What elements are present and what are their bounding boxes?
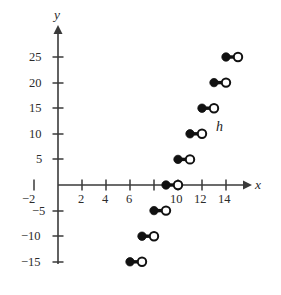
open-endpoint-dot: [174, 181, 182, 189]
open-endpoint-dot: [222, 78, 230, 86]
x-tick-label-12: 12: [194, 193, 207, 206]
closed-endpoint-dot: [222, 53, 230, 61]
step-segment: [174, 155, 194, 163]
open-endpoint-dot: [150, 232, 158, 240]
x-tick-label-10: 10: [170, 193, 183, 206]
closed-endpoint-dot: [138, 232, 146, 240]
x-axis-label: x: [255, 178, 261, 192]
open-endpoint-dot: [210, 104, 218, 112]
x-axis-arrow-icon: [243, 181, 252, 190]
x-tick-label-14: 14: [218, 193, 231, 206]
closed-endpoint-dot: [150, 206, 158, 214]
step-segment: [150, 206, 170, 214]
y-tick-label-25: 25: [29, 51, 42, 64]
y-tick-label--15: −15: [21, 256, 41, 269]
step-segment: [186, 130, 206, 138]
step-segment: [198, 104, 218, 112]
closed-endpoint-dot: [174, 155, 182, 163]
step-segment: [162, 181, 182, 189]
y-tick-label-20: 20: [29, 77, 42, 90]
open-endpoint-dot: [162, 206, 170, 214]
y-tick-label-15: 15: [29, 102, 42, 115]
step-segment: [210, 78, 230, 86]
y-tick-label-10: 10: [29, 128, 42, 141]
closed-endpoint-dot: [162, 181, 170, 189]
x-tick-label-2: 2: [78, 193, 84, 206]
y-axis-arrow-icon: [54, 25, 63, 34]
x-tick-label-4: 4: [102, 193, 108, 206]
open-endpoint-dot: [186, 155, 194, 163]
open-endpoint-dot: [234, 53, 242, 61]
closed-endpoint-dot: [186, 130, 194, 138]
y-axis-label: y: [54, 8, 60, 22]
step-segment: [222, 53, 242, 61]
y-tick-label-5: 5: [36, 153, 42, 166]
function-label-h: h: [216, 120, 223, 134]
closed-endpoint-dot: [126, 258, 134, 266]
axes-group: [54, 25, 253, 264]
plot-area: [0, 0, 281, 295]
y-tick-label--10: −10: [21, 230, 41, 243]
step-segment: [126, 258, 146, 266]
open-endpoint-dot: [198, 130, 206, 138]
step-segments-layer: [126, 53, 242, 266]
y-tick-label--5: −5: [32, 205, 45, 218]
open-endpoint-dot: [138, 258, 146, 266]
x-tick-label-6: 6: [126, 193, 132, 206]
closed-endpoint-dot: [210, 78, 218, 86]
step-segment: [138, 232, 158, 240]
closed-endpoint-dot: [198, 104, 206, 112]
step-function-graph: −2 2 4 6 10 12 14 25 20 15 10 5 −5 −10 −…: [0, 0, 281, 295]
